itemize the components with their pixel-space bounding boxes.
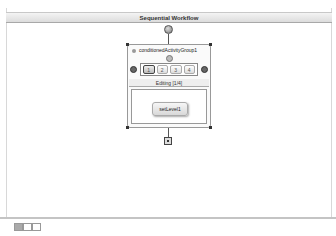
group-title: conditionedActivityGroup1 xyxy=(132,47,197,53)
selection-handle[interactable] xyxy=(209,43,212,46)
cancel-view-tab[interactable] xyxy=(23,223,32,231)
connector xyxy=(168,34,169,44)
add-branch-icon[interactable] xyxy=(166,55,173,62)
strip-item[interactable]: 4 xyxy=(184,65,196,74)
group-body[interactable]: setLevel1 xyxy=(131,89,207,124)
activity-strip: 1 2 3 4 xyxy=(140,63,198,76)
end-icon xyxy=(164,137,172,145)
strip-item[interactable]: 2 xyxy=(157,65,169,74)
strip-item[interactable]: 3 xyxy=(170,65,182,74)
workflow-header: Sequential Workflow xyxy=(6,12,332,23)
fault-view-tab[interactable] xyxy=(32,223,41,231)
view-tab-bar xyxy=(0,217,336,236)
workflow-view-tab[interactable] xyxy=(14,223,23,231)
selection-handle[interactable] xyxy=(209,126,212,129)
scroll-right-button[interactable] xyxy=(201,66,208,73)
selection-handle[interactable] xyxy=(126,43,129,46)
conditioned-activity-group[interactable]: conditionedActivityGroup1 1 2 3 4 Editin… xyxy=(127,44,211,128)
scroll-left-button[interactable] xyxy=(130,66,137,73)
collapse-icon[interactable] xyxy=(132,49,136,53)
connector xyxy=(168,128,169,137)
activity-setlevel1[interactable]: setLevel1 xyxy=(152,102,188,116)
start-icon xyxy=(164,25,173,34)
editing-label: Editing [1/4] xyxy=(129,79,209,87)
selection-handle[interactable] xyxy=(126,126,129,129)
strip-item[interactable]: 1 xyxy=(143,65,155,74)
